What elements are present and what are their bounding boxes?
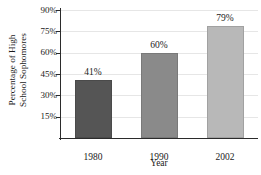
y-axis-tick-labels: 15%30%45%60%75%90%	[33, 8, 57, 139]
gridline	[61, 10, 258, 11]
y-axis-title-line1: Percentage of High	[7, 33, 18, 107]
y-axis-tick-label: 30%	[41, 91, 58, 100]
bar-value-label: 79%	[201, 13, 249, 23]
y-axis-tick-label: 75%	[41, 27, 58, 36]
bar-value-label: 41%	[69, 67, 117, 77]
y-axis-tick-label: 45%	[41, 70, 58, 79]
x-axis-baseline	[59, 138, 258, 139]
bar-value-label: 60%	[135, 40, 183, 50]
x-axis-title: Year	[60, 158, 258, 169]
bar-chart-figure: Percentage of High School Sophomores 15%…	[0, 0, 261, 175]
bar[interactable]	[141, 53, 178, 138]
bar[interactable]	[75, 80, 112, 138]
bar[interactable]	[207, 26, 244, 138]
y-axis-title-line2: School Sophomores	[18, 33, 29, 107]
y-axis-title: Percentage of High School Sophomores	[0, 0, 36, 140]
y-axis-tick-label: 15%	[41, 112, 58, 121]
y-axis-spine	[60, 8, 61, 140]
y-axis-tick-label: 90%	[41, 6, 58, 15]
y-axis-tick-label: 60%	[41, 48, 58, 57]
plot-area: 41%60%79% 198019902002	[60, 10, 258, 138]
